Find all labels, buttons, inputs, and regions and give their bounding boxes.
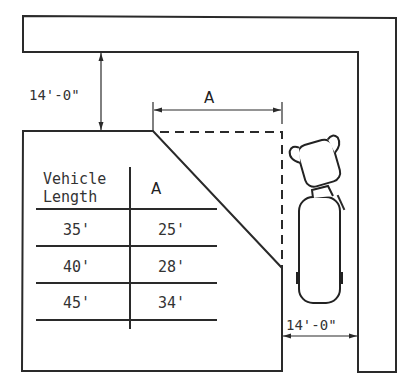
a-value-cell: 34' [158, 294, 185, 312]
arrow-right-icon [349, 334, 357, 339]
truck-hitch [312, 186, 333, 198]
table-row: 35' 25' [63, 221, 185, 239]
vehicle-length-cell: 35' [63, 221, 90, 239]
arrow-down-icon [99, 122, 104, 130]
vehicle-length-table: Vehicle Length A 35' 25' 40' 28' 45' 34' [37, 168, 216, 328]
truck-icon [288, 134, 349, 303]
table-header-a: A [151, 180, 162, 198]
a-value-cell: 25' [158, 221, 185, 239]
setback-a-label: A [204, 89, 215, 107]
top-clearance-label: 14'-0" [29, 87, 80, 103]
vehicle-length-cell: 40' [63, 258, 90, 276]
truck-trailer [299, 197, 340, 303]
table-row: 40' 28' [63, 258, 185, 276]
dock-layout-diagram: 14'-0" A 14'-0" [0, 0, 404, 384]
truck-wheel [296, 272, 299, 284]
truck-cab [288, 134, 349, 191]
bottom-clearance-label: 14'-0" [286, 317, 337, 333]
building-block [22, 131, 282, 371]
bottom-clearance-dimension: 14'-0" [283, 317, 357, 339]
top-clearance-dimension: 14'-0" [29, 53, 104, 130]
table-header-length: Length [43, 188, 97, 206]
vehicle-length-cell: 45' [63, 294, 90, 312]
a-value-cell: 28' [158, 258, 185, 276]
table-row: 45' 34' [63, 294, 185, 312]
truck-wheel [340, 272, 343, 284]
arrow-left-icon [283, 334, 291, 339]
table-header-vehicle: Vehicle [43, 170, 106, 188]
arrow-right-icon [273, 108, 281, 113]
setback-a-dimension: A [153, 89, 282, 131]
arrow-up-icon [99, 53, 104, 61]
arrow-left-icon [154, 108, 162, 113]
